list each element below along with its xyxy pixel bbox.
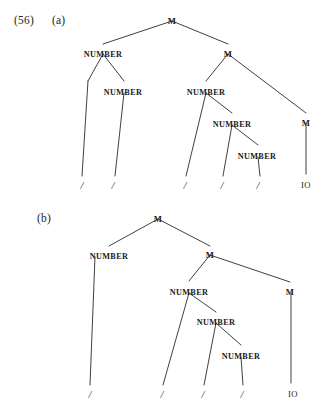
edge bbox=[204, 323, 216, 385]
tree-b-node-root-m: M bbox=[154, 215, 162, 224]
edge bbox=[210, 255, 290, 282]
tree-a-terminal-slash-2: / bbox=[112, 180, 115, 191]
edge bbox=[186, 93, 206, 176]
tree-b-terminal-slash-4: / bbox=[241, 389, 244, 400]
tree-a-node-root-m: M bbox=[168, 17, 176, 26]
edge bbox=[223, 125, 232, 176]
edge bbox=[241, 357, 243, 385]
tree-a-node-number-4: NUMBER bbox=[213, 120, 252, 129]
tree-b-node-number-3: NUMBER bbox=[197, 318, 236, 327]
tree-b-node-number-2: NUMBER bbox=[170, 288, 209, 297]
tree-a-terminal-slash-5: / bbox=[257, 180, 260, 191]
tree-b-terminal-slash-1: / bbox=[89, 389, 92, 400]
tree-a-terminal-slash-1: / bbox=[81, 180, 84, 191]
edge bbox=[158, 219, 210, 246]
tree-a-edges bbox=[0, 0, 327, 416]
tree-b-node-m-3: M bbox=[286, 288, 294, 297]
tree-b-terminal-slash-3: / bbox=[202, 389, 205, 400]
example-number: (56) bbox=[14, 14, 34, 26]
edge bbox=[103, 21, 172, 44]
tree-a-node-number-3: NUMBER bbox=[187, 88, 226, 97]
edge bbox=[228, 54, 306, 113]
tree-b-label: (b) bbox=[37, 212, 51, 224]
tree-a-terminal-io: IO bbox=[301, 180, 311, 190]
tree-a-label: (a) bbox=[52, 14, 65, 26]
edge bbox=[115, 93, 124, 176]
tree-a-node-number-5: NUMBER bbox=[238, 152, 277, 161]
edge bbox=[90, 257, 95, 385]
tree-b-node-number-1: NUMBER bbox=[90, 252, 129, 261]
tree-a-terminal-slash-4: / bbox=[221, 180, 224, 191]
tree-b-edges bbox=[0, 0, 327, 416]
syntax-tree-figure: (56) (a) M NUMBER M NUMBER NUMBER M NUMB… bbox=[0, 0, 327, 416]
tree-a-node-number-2: NUMBER bbox=[104, 88, 143, 97]
edge bbox=[163, 293, 189, 385]
tree-a-terminal-slash-3: / bbox=[184, 180, 187, 191]
edge bbox=[172, 21, 228, 44]
edge bbox=[109, 219, 158, 246]
tree-a-node-m-3: M bbox=[302, 119, 310, 128]
edge bbox=[82, 81, 88, 176]
tree-a-node-m-2: M bbox=[224, 50, 232, 59]
tree-b-terminal-io: IO bbox=[288, 389, 298, 399]
tree-b-terminal-slash-2: / bbox=[161, 389, 164, 400]
tree-b-node-m-2: M bbox=[206, 251, 214, 260]
tree-a-node-number-1: NUMBER bbox=[84, 50, 123, 59]
tree-b-node-number-4: NUMBER bbox=[222, 352, 261, 361]
